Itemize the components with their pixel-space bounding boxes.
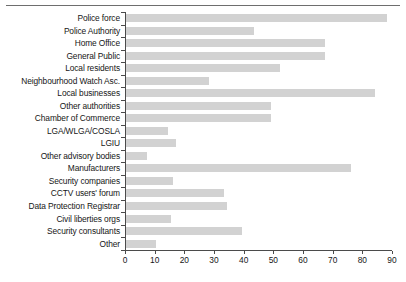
bar xyxy=(126,227,242,235)
bar xyxy=(126,39,325,47)
x-axis-tick-label: 80 xyxy=(358,255,367,265)
bar xyxy=(126,177,173,185)
x-axis-tick-label: 0 xyxy=(123,255,128,265)
bar xyxy=(126,77,209,85)
category-label-row: Data Protection Registrar xyxy=(0,200,124,213)
x-axis-tick xyxy=(155,251,156,254)
x-axis-tick-label: 20 xyxy=(180,255,189,265)
y-axis-tick xyxy=(121,25,125,26)
bar-row xyxy=(126,62,394,75)
bar-row xyxy=(126,187,394,200)
bar xyxy=(126,240,156,248)
y-axis-tick xyxy=(121,50,125,51)
y-axis-tick xyxy=(121,37,125,38)
category-label: LGIU xyxy=(101,139,120,148)
bar-row xyxy=(126,12,394,25)
category-label-row: CCTV users' forum xyxy=(0,187,124,200)
bar-chart-figure: Police forcePolice AuthorityHome OfficeG… xyxy=(0,0,406,282)
y-axis-tick xyxy=(121,187,125,188)
category-label-row: Security companies xyxy=(0,175,124,188)
bar-row xyxy=(126,200,394,213)
category-label-row: Chamber of Commerce xyxy=(0,112,124,125)
category-label: Neighbourhood Watch Asc. xyxy=(21,76,120,85)
y-axis-tick xyxy=(121,200,125,201)
category-label: Local residents xyxy=(65,64,120,73)
bar xyxy=(126,189,224,197)
bar-row xyxy=(126,37,394,50)
y-axis-tick xyxy=(121,125,125,126)
category-label: Other xyxy=(100,239,120,248)
y-axis-tick xyxy=(121,112,125,113)
category-label-row: Police force xyxy=(0,12,124,25)
category-label-row: LGA/WLGA/COSLA xyxy=(0,125,124,138)
y-axis-tick xyxy=(121,250,125,251)
bar xyxy=(126,202,227,210)
x-axis-tick-label: 30 xyxy=(209,255,218,265)
category-label-row: Civil liberties orgs xyxy=(0,212,124,225)
category-label: Other advisory bodies xyxy=(41,151,120,160)
category-label: Police force xyxy=(77,14,120,23)
y-axis-tick xyxy=(121,75,125,76)
y-axis-tick xyxy=(121,137,125,138)
x-axis-tick-label: 60 xyxy=(298,255,307,265)
bar-row xyxy=(126,75,394,88)
category-label: Civil liberties orgs xyxy=(56,214,120,223)
bar xyxy=(126,139,176,147)
bar xyxy=(126,114,271,122)
category-label-row: Neighbourhood Watch Asc. xyxy=(0,75,124,88)
page-rule-divider xyxy=(6,5,400,6)
bar-row xyxy=(126,225,394,238)
category-label: Security companies xyxy=(49,176,120,185)
bar-row xyxy=(126,212,394,225)
x-axis-tick-label: 90 xyxy=(387,255,396,265)
y-axis-tick xyxy=(121,175,125,176)
y-axis-tick xyxy=(121,212,125,213)
bars-container xyxy=(126,12,394,250)
x-axis-tick xyxy=(273,251,274,254)
x-axis-tick-label: 40 xyxy=(239,255,248,265)
value-axis-ticks: 0102030405060708090 xyxy=(0,251,406,271)
category-label: General Public xyxy=(66,51,120,60)
x-axis-tick-label: 70 xyxy=(328,255,337,265)
bar-row xyxy=(126,50,394,63)
bar xyxy=(126,127,168,135)
bar xyxy=(126,14,387,22)
y-axis-tick xyxy=(121,100,125,101)
y-axis-tick xyxy=(121,162,125,163)
category-label: Data Protection Registrar xyxy=(28,201,120,210)
x-axis-tick-label: 10 xyxy=(150,255,159,265)
x-axis-tick xyxy=(333,251,334,254)
y-axis-tick xyxy=(121,12,125,13)
category-label: Local businesses xyxy=(57,89,120,98)
category-axis-labels: Police forcePolice AuthorityHome OfficeG… xyxy=(0,12,124,250)
bar-row xyxy=(126,175,394,188)
y-axis-tick xyxy=(121,62,125,63)
plot-area: Police forcePolice AuthorityHome OfficeG… xyxy=(0,12,406,260)
x-axis-tick xyxy=(303,251,304,254)
category-label: Police Authority xyxy=(64,26,120,35)
category-label: LGA/WLGA/COSLA xyxy=(47,126,120,135)
bar-row xyxy=(126,137,394,150)
y-axis-tick xyxy=(121,237,125,238)
category-label-row: Other xyxy=(0,237,124,250)
x-axis-tick xyxy=(125,251,126,254)
category-label-row: Manufacturers xyxy=(0,162,124,175)
category-label-row: Local businesses xyxy=(0,87,124,100)
bar xyxy=(126,27,254,35)
bar xyxy=(126,215,171,223)
category-label-row: Other authorities xyxy=(0,100,124,113)
category-label-row: Other advisory bodies xyxy=(0,150,124,163)
category-label: Security consultants xyxy=(47,227,120,236)
category-label: CCTV users' forum xyxy=(51,189,120,198)
x-axis-tick-label: 50 xyxy=(269,255,278,265)
x-axis-tick xyxy=(244,251,245,254)
y-axis-tick xyxy=(121,150,125,151)
category-label-row: Police Authority xyxy=(0,25,124,38)
bar-row xyxy=(126,100,394,113)
y-axis-tick xyxy=(121,225,125,226)
bar-row xyxy=(126,162,394,175)
bar-row xyxy=(126,25,394,38)
bar-row xyxy=(126,150,394,163)
bar-row xyxy=(126,237,394,250)
x-axis-tick xyxy=(184,251,185,254)
